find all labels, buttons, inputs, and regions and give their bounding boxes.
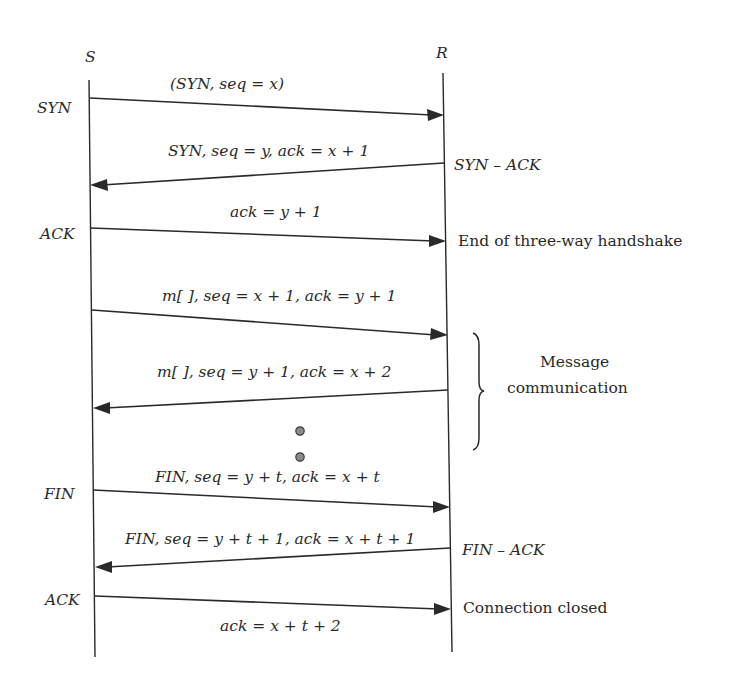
message-data-s-to-r: m[ ], seq = x + 1, ack = y + 1 (92, 287, 448, 340)
arrowhead-left-icon (93, 402, 110, 414)
dot-icon (296, 453, 304, 461)
message-label: FIN, seq = y + t, ack = x + t (154, 468, 381, 486)
arrowhead-right-icon (429, 235, 446, 247)
arrowhead-right-icon (434, 603, 451, 615)
message-fin-ack: FIN, seq = y + t + 1, ack = x + t + 1 FI… (95, 530, 546, 573)
arrowhead-left-icon (90, 179, 108, 191)
message-label: (SYN, seq = x) (170, 75, 284, 93)
participant-s-label: S (85, 48, 96, 66)
arrowhead-left-icon (95, 561, 112, 573)
message-label: m[ ], seq = y + 1, ack = x + 2 (157, 363, 391, 381)
lifeline-s (89, 80, 95, 657)
tcp-sequence-diagram: S R (SYN, seq = x) SYN SYN, seq = y, ack… (0, 0, 735, 687)
dot-icon (296, 427, 304, 435)
lifeline-r (443, 73, 452, 652)
message-ack: ack = y + 1 ACK End of three-way handsha… (38, 203, 682, 250)
message-syn-ack: SYN, seq = y, ack = x + 1 SYN – ACK (90, 142, 542, 191)
message-label: ack = x + t + 2 (220, 617, 341, 635)
group-label-line2: communication (507, 379, 628, 397)
message-fin: FIN, seq = y + t, ack = x + t FIN (43, 468, 450, 513)
arrowhead-right-icon (430, 328, 448, 340)
message-communication-group: Message communication (473, 333, 628, 450)
sender-note: ACK (43, 591, 81, 609)
receiver-note-handshake-end: End of three-way handshake (458, 232, 682, 250)
group-label-line1: Message (540, 353, 609, 371)
sender-note: FIN (43, 485, 76, 503)
message-label: m[ ], seq = x + 1, ack = y + 1 (162, 287, 396, 305)
message-label: ack = y + 1 (230, 203, 322, 221)
sender-note: SYN (37, 99, 73, 117)
receiver-side-note: FIN – ACK (461, 541, 546, 559)
message-label: SYN, seq = y, ack = x + 1 (168, 142, 369, 160)
receiver-note-connection-closed: Connection closed (463, 599, 608, 617)
message-label: FIN, seq = y + t + 1, ack = x + t + 1 (124, 530, 415, 548)
message-syn: (SYN, seq = x) SYN (37, 75, 444, 121)
sender-note: ACK (38, 225, 76, 243)
curly-brace-icon (473, 333, 484, 450)
message-final-ack: ack = x + t + 2 ACK Connection closed (43, 591, 608, 635)
arrowhead-right-icon (433, 501, 450, 513)
participant-r-label: R (435, 44, 448, 62)
receiver-side-note: SYN – ACK (454, 156, 542, 174)
ellipsis-dots (296, 427, 304, 461)
message-data-r-to-s: m[ ], seq = y + 1, ack = x + 2 (93, 363, 448, 414)
arrowhead-right-icon (427, 109, 444, 121)
